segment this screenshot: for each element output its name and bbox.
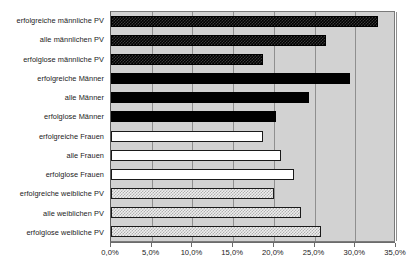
x-tick	[273, 243, 274, 247]
bar-row	[111, 107, 394, 126]
x-tick	[110, 243, 111, 247]
bar	[111, 188, 274, 199]
category-label: erfolgreiche männliche PV	[0, 11, 108, 30]
bar-row	[111, 50, 394, 69]
x-tick-label: 25,0%	[303, 248, 325, 257]
bar-row	[111, 165, 394, 184]
bar-row	[111, 69, 394, 88]
bar-row	[111, 12, 394, 31]
bar	[111, 207, 301, 218]
bar-row	[111, 126, 394, 145]
bar	[111, 111, 276, 122]
bar	[111, 226, 321, 237]
category-label: erfolglose Frauen	[0, 165, 108, 184]
chart-title	[0, 0, 416, 2]
bar-row	[111, 203, 394, 222]
x-tick-label: 0,0%	[101, 248, 118, 257]
bar	[111, 35, 326, 46]
category-label: erfolgreiche Männer	[0, 69, 108, 88]
category-label: alle männlichen PV	[0, 30, 108, 49]
category-label: erfolgreiche Frauen	[0, 127, 108, 146]
bar-row	[111, 184, 394, 203]
x-tick	[191, 243, 192, 247]
bar-row	[111, 88, 394, 107]
plot-area	[110, 11, 395, 242]
bar	[111, 54, 263, 65]
bar	[111, 150, 281, 161]
x-tick	[151, 243, 152, 247]
category-label: alle Frauen	[0, 146, 108, 165]
x-axis-ticks	[110, 243, 395, 247]
bar-row	[111, 146, 394, 165]
bar-row	[111, 222, 394, 241]
x-tick-label: 35,0%	[384, 248, 406, 257]
category-label: erfolglose weibliche PV	[0, 223, 108, 242]
x-tick	[354, 243, 355, 247]
bar-row	[111, 31, 394, 50]
x-axis-tick-labels: 0,0%5,0%10,0%15,0%20,0%25,0%30,0%35,0%	[0, 248, 416, 262]
category-label: alle Männer	[0, 88, 108, 107]
x-tick-label: 30,0%	[344, 248, 366, 257]
x-tick-label: 20,0%	[262, 248, 284, 257]
bar	[111, 92, 309, 103]
horizontal-bar-chart: erfolgreiche männliche PValle männlichen…	[0, 0, 416, 268]
x-tick	[314, 243, 315, 247]
category-label: alle weiblichen PV	[0, 204, 108, 223]
bar	[111, 16, 378, 27]
bar	[111, 169, 294, 180]
bar-series	[111, 12, 394, 241]
y-axis-category-labels: erfolgreiche männliche PValle männlichen…	[0, 11, 108, 242]
category-label: erfolglose Männer	[0, 107, 108, 126]
category-label: erfolglose männliche PV	[0, 50, 108, 69]
bar	[111, 131, 263, 142]
x-tick	[232, 243, 233, 247]
gridline	[396, 12, 397, 241]
category-label: erfolgreiche weibliche PV	[0, 184, 108, 203]
x-tick-label: 5,0%	[142, 248, 159, 257]
bar	[111, 73, 350, 84]
x-tick	[395, 243, 396, 247]
x-tick-label: 10,0%	[181, 248, 203, 257]
x-tick-label: 15,0%	[221, 248, 243, 257]
